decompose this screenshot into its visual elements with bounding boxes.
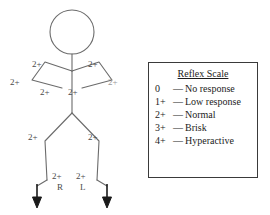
reflex-scale-legend: Reflex Scale 0—No response1+—Low respons… [148,62,258,178]
reflex-label-right-biceps: 2+ [88,60,98,69]
legend-description: Normal [185,109,216,120]
legend-score: 2+ [155,109,171,120]
side-label-left-side-marker: L [80,183,86,192]
legend-dash: — [171,109,185,120]
reflex-label-left-patellar: 2+ [28,133,38,142]
legend-dash: — [171,122,185,133]
legend-dash: — [171,96,185,107]
legend-description: Low response [185,96,241,107]
reflex-label-left-triceps: 2+ [40,88,50,97]
right-downward-arrow [103,184,112,208]
right-leg-line [72,113,99,180]
left-foot-line [37,180,47,186]
legend-score: 1+ [155,96,171,107]
legend-description: No response [185,83,235,94]
legend-score: 3+ [155,122,171,133]
left-downward-arrow [33,184,42,208]
legend-score: 4+ [155,135,171,146]
legend-score: 0 [155,83,171,94]
head-circle [50,10,94,54]
legend-title: Reflex Scale [149,68,257,79]
legend-row: 0—No response [149,83,257,94]
legend-row: 4+—Hyperactive [149,135,257,146]
reflex-label-right-triceps: 2+ [68,88,78,97]
reflex-label-left-biceps: 2+ [32,60,42,69]
right-foot-line [97,180,107,186]
reflex-label-left-brachioradialis: 2+ [10,78,20,87]
left-leg-line [45,113,72,180]
legend-row: 3+—Brisk [149,122,257,133]
side-label-right-side-marker: R [57,183,63,192]
legend-description: Brisk [185,122,207,133]
reflex-label-right-achilles: 2+ [76,172,86,181]
legend-description: Hyperactive [185,135,234,146]
legend-row: 1+—Low response [149,96,257,107]
reflex-label-right-patellar: 2+ [88,133,98,142]
reflex-label-left-achilles: 2+ [52,172,62,181]
legend-dash: — [171,135,185,146]
legend-rows: 0—No response1+—Low response2+—Normal3+—… [149,83,257,146]
reflex-label-right-brachioradialis: 2+ [108,78,118,87]
legend-row: 2+—Normal [149,109,257,120]
legend-dash: — [171,83,185,94]
